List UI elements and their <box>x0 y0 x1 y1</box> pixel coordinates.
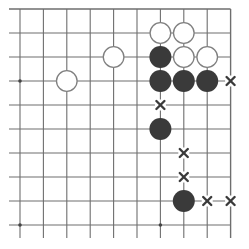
white-stone <box>174 23 195 44</box>
white-stone <box>174 47 195 68</box>
black-stone <box>149 46 171 68</box>
x-mark-icon <box>225 196 236 207</box>
star-point <box>159 223 163 227</box>
black-stone <box>196 70 218 92</box>
black-stone <box>173 190 195 212</box>
go-board <box>0 0 249 249</box>
star-point <box>18 223 22 227</box>
black-stone <box>173 70 195 92</box>
x-mark-icon <box>202 196 213 207</box>
x-mark-icon <box>225 76 236 87</box>
white-stone <box>197 47 218 68</box>
black-stone <box>149 118 171 140</box>
x-mark-icon <box>155 100 166 111</box>
star-point <box>18 79 22 83</box>
white-stone <box>57 71 78 92</box>
x-mark-icon <box>178 148 189 159</box>
marks-layer <box>155 76 236 207</box>
white-stone <box>103 47 124 68</box>
x-mark-icon <box>178 172 189 183</box>
white-stone <box>150 23 171 44</box>
board-grid <box>9 9 231 238</box>
black-stone <box>149 70 171 92</box>
